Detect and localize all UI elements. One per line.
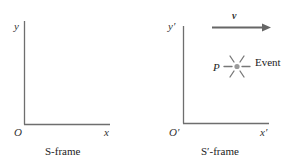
s-prime-frame-caption: S′-frame <box>201 146 239 157</box>
s-frame-origin-label: O <box>14 127 22 138</box>
reference-frames-diagram <box>0 0 294 163</box>
s-prime-frame-origin-label: O′ <box>169 127 179 138</box>
s-prime-frame-x-label: x′ <box>260 127 267 138</box>
s-frame-axes <box>24 21 110 125</box>
s-frame-caption: S-frame <box>45 146 80 157</box>
event-dot <box>234 64 239 69</box>
event-point-label: P <box>213 62 220 73</box>
s-prime-frame-axes <box>183 26 269 124</box>
velocity-arrow-icon <box>212 24 271 32</box>
s-frame-y-label: y <box>14 21 19 32</box>
event-label: Event <box>255 57 281 68</box>
starburst-icon <box>224 56 250 77</box>
s-frame-x-label: x <box>104 127 109 138</box>
velocity-label: v <box>232 11 236 21</box>
s-prime-frame-y-label: y′ <box>168 21 175 32</box>
